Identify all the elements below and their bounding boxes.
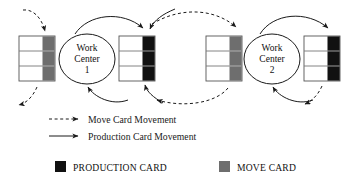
production-arrow-wc2-to-stack4 (260, 16, 328, 34)
work-center-1-line3: 1 (85, 65, 90, 75)
production-card-marker (328, 66, 340, 80)
work-center-1-line1: Work (77, 43, 98, 53)
work-center-1-line2: Center (74, 54, 100, 64)
work-center-2: Work Center 2 (244, 34, 300, 84)
move-arrow-into-stack-1 (23, 10, 45, 31)
kanban-diagram-canvas: Work Center 1 Work Center 2 (0, 0, 352, 183)
work-center-1: Work Center 1 (59, 34, 115, 84)
diagram-svg: Work Center 1 Work Center 2 (0, 0, 352, 183)
card-stack-2 (119, 36, 155, 81)
production-card-marker (143, 36, 155, 50)
production-card-marker (143, 66, 155, 80)
move-arrow-stack3-to-stack2 (157, 88, 228, 104)
move-card-marker (43, 51, 55, 65)
move-card-marker (230, 66, 242, 80)
card-stack-3 (206, 36, 242, 81)
production-arrow-stack2-to-wc1 (88, 87, 128, 102)
move-card-marker (230, 51, 242, 65)
work-center-2-line2: Center (259, 54, 285, 64)
work-center-2-line1: Work (262, 43, 283, 53)
production-card-marker (143, 51, 155, 65)
move-card-marker (43, 36, 55, 50)
card-legend: PRODUCTION CARD MOVE CARD (55, 161, 296, 173)
card-stack-1 (19, 36, 55, 81)
work-center-2-line3: 2 (270, 65, 275, 75)
card-stack-4 (304, 36, 340, 81)
move-card-marker (43, 66, 55, 80)
move-card-marker (230, 36, 242, 50)
production-arrow-stack4-to-wc2 (273, 87, 313, 102)
flow-legend: Move Card Movement Production Card Movem… (49, 114, 196, 142)
production-card-legend-label: PRODUCTION CARD (73, 162, 167, 173)
production-arrow-into-stack-2-bottom (145, 85, 163, 103)
production-card-marker (328, 36, 340, 50)
production-arrow-wc1-to-stack2 (75, 17, 143, 34)
production-card-marker (328, 51, 340, 65)
move-card-swatch (219, 161, 230, 172)
move-arrow-out-of-stack-1 (19, 87, 37, 105)
move-card-legend-label: MOVE CARD (237, 162, 296, 173)
production-card-swatch (55, 161, 66, 172)
move-card-movement-label: Move Card Movement (88, 114, 177, 125)
production-card-movement-label: Production Card Movement (88, 131, 196, 142)
